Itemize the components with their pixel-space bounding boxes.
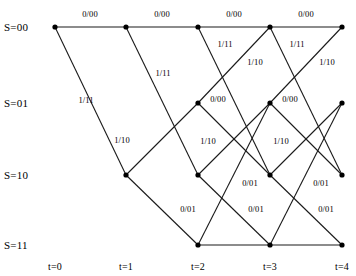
trellis-node — [52, 24, 57, 29]
trellis-edge — [126, 27, 198, 175]
edge-label: 1/10 — [200, 136, 216, 146]
trellis-node — [195, 172, 200, 177]
edge-label: 0/00 — [298, 9, 314, 19]
edge-label: 0/00 — [282, 94, 298, 104]
edge-label: 1/11 — [289, 39, 304, 49]
edge-label: 1/11 — [78, 95, 93, 105]
edge-label: 1/10 — [273, 136, 289, 146]
trellis-node — [123, 172, 128, 177]
trellis-node — [267, 100, 272, 105]
edge-layer — [55, 27, 342, 245]
trellis-edge — [270, 103, 342, 245]
trellis-node — [195, 100, 200, 105]
state-label-s00: S=00 — [4, 21, 28, 33]
trellis-edge — [126, 103, 198, 175]
edge-label: 0/00 — [154, 9, 170, 19]
time-label-t3: t=3 — [263, 261, 277, 272]
edge-label: 0/01 — [318, 204, 334, 214]
edge-label: 0/01 — [248, 204, 264, 214]
trellis-node — [267, 24, 272, 29]
edge-label: 1/11 — [155, 68, 170, 78]
edge-label: 0/00 — [226, 9, 242, 19]
state-label-s10: S=10 — [4, 169, 28, 181]
trellis-node — [339, 100, 344, 105]
trellis-node — [195, 24, 200, 29]
edge-label: 1/10 — [247, 57, 263, 67]
time-label-t4: t=4 — [335, 261, 349, 272]
state-label-s01: S=01 — [4, 97, 28, 109]
trellis-node — [339, 172, 344, 177]
time-label-t2: t=2 — [191, 261, 205, 272]
time-label-t1: t=1 — [119, 261, 133, 272]
edge-label: 0/00 — [82, 9, 98, 19]
edge-label: 0/01 — [313, 178, 329, 188]
time-label-t0: t=0 — [48, 261, 62, 272]
trellis-edge — [270, 27, 342, 175]
edge-label: 0/01 — [242, 178, 258, 188]
trellis-node — [195, 242, 200, 247]
trellis-edge — [198, 103, 270, 245]
node-layer — [52, 24, 344, 247]
edge-label: 1/11 — [217, 39, 232, 49]
edge-label: 0/01 — [180, 204, 196, 214]
trellis-node — [339, 242, 344, 247]
edge-label: 1/10 — [114, 135, 130, 145]
trellis-node — [123, 24, 128, 29]
trellis-node — [267, 242, 272, 247]
state-label-s11: S=11 — [4, 239, 28, 251]
edge-label: 0/00 — [210, 94, 226, 104]
trellis-node — [339, 24, 344, 29]
trellis-node — [267, 172, 272, 177]
edge-label: 1/10 — [319, 57, 335, 67]
trellis-edge — [198, 27, 270, 175]
trellis-diagram: S=00S=01S=10S=11 t=0t=1t=2t=3t=4 0/000/0… — [0, 0, 356, 276]
